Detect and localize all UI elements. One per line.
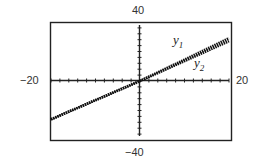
y1-label: y1: [173, 32, 183, 50]
plot-area: [0, 0, 260, 166]
y2-label: y2: [194, 55, 204, 73]
